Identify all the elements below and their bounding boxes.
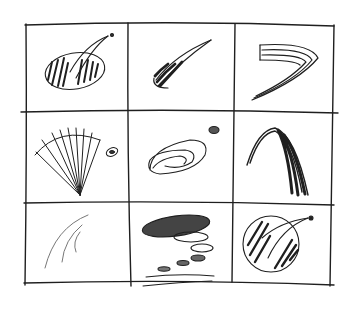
concept-radiating-fan [35, 128, 119, 195]
concept-oval-trail [141, 211, 214, 286]
concept-globe-comet [243, 216, 313, 272]
concept-dark-arch [247, 128, 308, 195]
concept-spiral-galaxy [149, 127, 219, 175]
sketch-canvas [0, 0, 354, 320]
concept-chevron-swoosh [252, 45, 318, 100]
sketch-grid [0, 0, 354, 320]
concept-comet-streak [154, 40, 211, 88]
concept-oval-comet [42, 34, 113, 94]
concept-nested-arcs [45, 215, 88, 268]
